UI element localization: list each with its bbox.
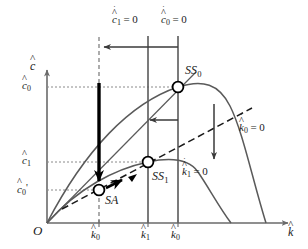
origin-label: O xyxy=(33,224,42,237)
y-tick-label-c0-prime: ^c0' xyxy=(17,183,28,197)
y-tick-label-c1: ^c1 xyxy=(22,155,31,168)
y-tick-label-c0: ^c0 xyxy=(22,80,31,93)
x-tick-label-k1: ^k1 xyxy=(141,229,150,242)
SS1-base: SS xyxy=(152,169,164,183)
point-label-SS0: SS0 xyxy=(185,64,201,78)
x-tick-label-k0: ^k0 xyxy=(171,229,180,242)
point-label-SS1: SS1 xyxy=(152,170,168,184)
SS1-subscript: 1 xyxy=(164,176,168,185)
cdot0-subscript: 0 xyxy=(166,19,170,27)
c0-subscript: 0 xyxy=(27,85,31,93)
ray-origin-to-ss0 xyxy=(47,72,196,223)
locus-label-cdot0-zero: ˙^c0= 0 xyxy=(161,14,187,27)
cdot-loci-group xyxy=(148,36,178,223)
kdot0-subscript: 0 xyxy=(244,127,248,135)
ray-group xyxy=(47,72,196,223)
locus-label-kdot1-zero: ˙^k1= 0 xyxy=(182,166,208,179)
saddle-path-line xyxy=(62,108,252,209)
k1-subscript: 1 xyxy=(146,234,150,242)
marker-SS1[interactable] xyxy=(143,157,154,168)
x-tick-label-k0-prime: ^k0 xyxy=(91,229,100,242)
SS0-base: SS xyxy=(185,63,197,77)
kdot0-zero-curve xyxy=(47,83,266,223)
phase-diagram-figure: ^c ^k O ^c0 ^c1 ^c0' ^k0 ^k1 ^k0 ˙^c1= 0… xyxy=(0,0,308,249)
marker-SS0[interactable] xyxy=(173,82,184,93)
c0prime-prime-mark: ' xyxy=(26,182,28,193)
c1-subscript: 1 xyxy=(27,160,31,168)
saddle-path-group xyxy=(62,108,252,209)
axes-group xyxy=(47,70,288,223)
k0-subscript: 0 xyxy=(176,234,180,242)
kdot1-equals-zero: = 0 xyxy=(193,165,207,177)
x-axis-label: ^k xyxy=(288,226,293,238)
point-label-SA: SA xyxy=(105,194,118,206)
cdot1-subscript: 1 xyxy=(117,19,121,27)
y-axis-label: ^c xyxy=(30,60,35,72)
cdot1-equals-zero: = 0 xyxy=(123,13,137,25)
kdot-loci-group xyxy=(47,83,266,223)
SS0-subscript: 0 xyxy=(197,70,201,79)
saddle-path-second-arrowhead xyxy=(128,174,137,182)
marker-SA[interactable] xyxy=(94,185,105,196)
locus-label-cdot1-zero: ˙^c1= 0 xyxy=(112,14,138,27)
cdot0-equals-zero: = 0 xyxy=(172,13,186,25)
locus-label-kdot0-zero: ˙^k0= 0 xyxy=(239,122,265,135)
kdot0-equals-zero: = 0 xyxy=(250,121,264,133)
kdot1-subscript: 1 xyxy=(187,171,191,179)
k0prime-subscript: 0 xyxy=(96,234,100,242)
